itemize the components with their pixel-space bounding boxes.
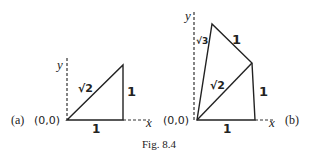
panel-tag-a: (a) [11, 113, 24, 127]
origin-label-b: (0,0) [163, 114, 189, 127]
figure-8-4: y x √2 1 1 (0,0) (a) y x √3 1 √2 1 1 (0,… [0, 0, 313, 160]
top-label-b: 1 [232, 32, 241, 47]
vert-label-b: 1 [259, 84, 268, 99]
panel-b: y x √3 1 √2 1 1 (0,0) (b) [163, 8, 299, 136]
origin-label-a: (0,0) [34, 114, 60, 127]
sqrt3-label-b: √3 [196, 36, 208, 46]
sqrt2-label-b: √2 [210, 79, 225, 92]
triangle-a [67, 65, 123, 120]
vert-label-a: 1 [127, 84, 136, 99]
horiz-label-b: 1 [223, 122, 231, 136]
x-label-b: x [268, 115, 275, 130]
panel-a: y x √2 1 1 (0,0) (a) [11, 57, 152, 136]
panel-tag-b: (b) [285, 113, 299, 127]
hyp-label-a: √2 [78, 82, 93, 95]
y-label-b: y [183, 8, 191, 23]
y-label-a: y [55, 57, 63, 72]
horiz-label-a: 1 [92, 122, 100, 136]
figure-caption: Fig. 8.4 [142, 138, 176, 150]
x-label-a: x [145, 115, 152, 130]
